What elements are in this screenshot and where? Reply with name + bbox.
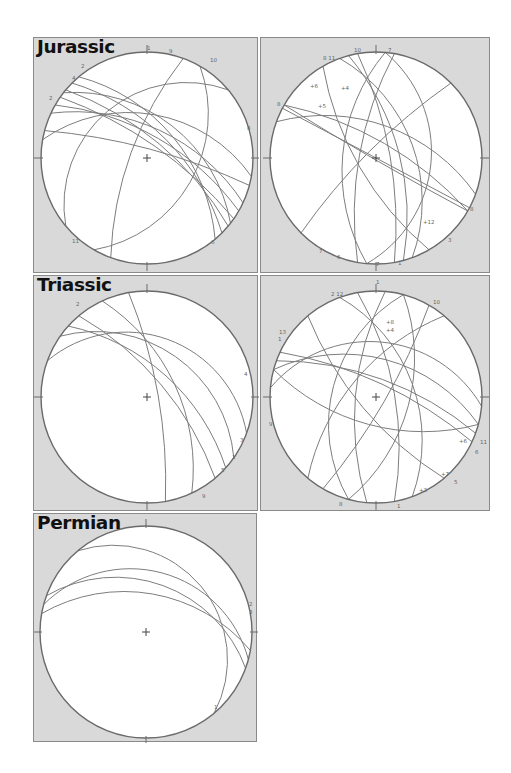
panel-title: Jurassic bbox=[37, 36, 115, 57]
stereonet-plot: 231 bbox=[34, 514, 258, 743]
stereonet-plot: 1078 11+4+6+58+12837671 bbox=[261, 38, 491, 274]
plane-label: 9 bbox=[269, 421, 273, 427]
plane-label: +6 bbox=[310, 83, 319, 89]
plane-label: 11 bbox=[72, 238, 79, 244]
plane-label: +6 bbox=[459, 438, 468, 444]
plane-label: 6 bbox=[337, 254, 341, 260]
plane-label: 3 bbox=[448, 237, 452, 243]
plane-label: 7 bbox=[319, 248, 323, 254]
stereonet-plot: 243159 bbox=[34, 276, 259, 512]
plane-label: 1 bbox=[232, 454, 236, 460]
plane-label: +4 bbox=[341, 85, 350, 91]
plane-label: 8 bbox=[277, 101, 281, 107]
plane-label: 2 bbox=[249, 601, 253, 607]
plane-label: 1 bbox=[398, 260, 402, 266]
plane-label: 9 bbox=[169, 48, 173, 54]
stereonet-panel-triassic-second: 12 1210+8+41319+6116+75+381 bbox=[260, 275, 490, 511]
plane-label: 4 bbox=[72, 75, 76, 81]
plane-label: 5 bbox=[221, 467, 225, 473]
plane-label: 9 bbox=[202, 493, 206, 499]
plane-label: 3 bbox=[240, 437, 244, 443]
plane-label: 5 bbox=[454, 479, 458, 485]
plane-label: 10 bbox=[433, 299, 440, 305]
plane-label: 6 bbox=[475, 449, 479, 455]
plane-label: 7 bbox=[388, 47, 392, 53]
plane-label: 2 bbox=[81, 63, 85, 69]
stereonet-plot: 12 1210+8+41319+6116+75+381 bbox=[261, 276, 491, 512]
panel-title: Triassic bbox=[37, 274, 112, 295]
plane-label: +12 bbox=[423, 219, 435, 225]
stereonet-panel-jurassic-second: 1078 11+4+6+58+12837671 bbox=[260, 37, 490, 273]
plane-label: 1 bbox=[376, 279, 380, 285]
plane-label: 8 bbox=[470, 206, 474, 212]
plane-label: 10 bbox=[210, 57, 217, 63]
stereonet-panel-jurassic-main: Jurassic19102421186 bbox=[33, 37, 258, 273]
plane-label: 7 bbox=[376, 261, 380, 267]
plane-label: 8 bbox=[339, 501, 343, 507]
plane-label: +8 bbox=[386, 319, 395, 325]
plane-label: 13 bbox=[279, 329, 286, 335]
stereonet-panel-permian-main: Permian231 bbox=[33, 513, 257, 742]
plane-label: 8 bbox=[247, 125, 251, 131]
plane-label: +4 bbox=[386, 327, 395, 333]
plane-label: 2 bbox=[49, 95, 53, 101]
stereonet-plot: 19102421186 bbox=[34, 38, 259, 274]
plane-label: +7 bbox=[441, 471, 450, 477]
plane-label: +5 bbox=[318, 103, 327, 109]
stereonet-panel-triassic-main: Triassic243159 bbox=[33, 275, 258, 511]
plane-label: 1 bbox=[214, 704, 218, 710]
panel-title: Permian bbox=[37, 512, 121, 533]
plane-label: 6 bbox=[211, 239, 215, 245]
plane-label: 4 bbox=[244, 371, 248, 377]
plane-label: 2 bbox=[76, 301, 80, 307]
plane-label: +3 bbox=[419, 487, 428, 493]
plane-label: 1 bbox=[147, 45, 151, 51]
plane-label: 1 bbox=[278, 336, 282, 342]
plane-label: 1 bbox=[397, 503, 401, 509]
plane-label: 8 11 bbox=[323, 55, 335, 61]
plane-label: 3 bbox=[249, 609, 253, 615]
plane-label: 10 bbox=[354, 47, 361, 53]
plane-label: 11 bbox=[480, 439, 487, 445]
plane-label: 2 12 bbox=[331, 291, 343, 297]
